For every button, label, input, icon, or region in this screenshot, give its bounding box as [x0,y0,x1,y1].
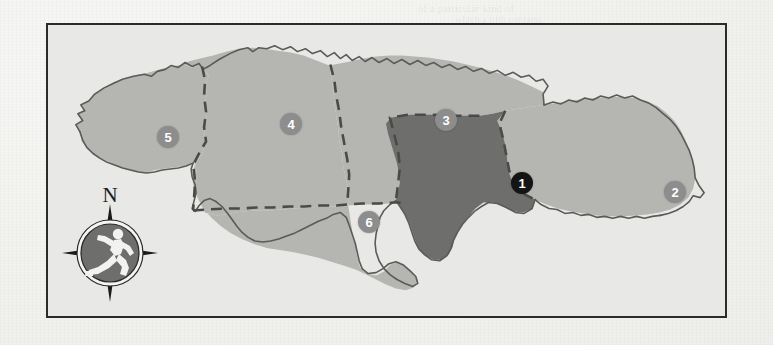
region-marker-6-label: 6 [365,215,372,228]
compass-rose-graphic [62,204,158,302]
map-frame: 1 2 3 4 5 6 N [46,23,727,318]
region-marker-1-label: 1 [518,176,525,189]
region-marker-3[interactable]: 3 [435,109,457,131]
region-5-area[interactable] [76,64,209,173]
region-marker-1[interactable]: 1 [511,172,533,194]
region-marker-3-label: 3 [442,113,449,126]
region-marker-5-label: 5 [164,130,171,143]
region-marker-2-label: 2 [671,185,678,198]
compass-north-label: N [62,184,158,206]
compass-rose: N [62,184,158,302]
region-marker-4-label: 4 [287,117,294,130]
region-marker-4[interactable]: 4 [280,113,302,135]
region-marker-5[interactable]: 5 [157,126,179,148]
region-marker-6[interactable]: 6 [358,211,380,233]
region-marker-2[interactable]: 2 [664,181,686,203]
region-4-area[interactable] [183,48,349,216]
